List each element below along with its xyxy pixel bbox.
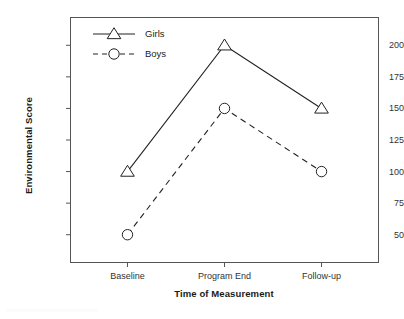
triangle-marker bbox=[121, 165, 135, 176]
triangle-marker bbox=[107, 28, 121, 39]
triangle-marker bbox=[218, 39, 232, 50]
legend-item-girls: Girls bbox=[93, 28, 165, 40]
legend-label: Girls bbox=[145, 28, 165, 39]
plot-area: GirlsBoys bbox=[0, 0, 404, 319]
chart-figure: Environmental Score Time of Measurement … bbox=[0, 0, 404, 319]
triangle-marker bbox=[315, 102, 329, 113]
circle-marker bbox=[316, 166, 326, 176]
page-artifact bbox=[6, 309, 98, 312]
data-series-layer bbox=[121, 39, 329, 240]
legend-label: Boys bbox=[145, 48, 166, 59]
series-line bbox=[127, 108, 321, 234]
circle-marker bbox=[109, 49, 119, 59]
x-axis-ticks bbox=[127, 263, 321, 268]
circle-marker bbox=[219, 103, 229, 113]
circle-marker bbox=[122, 230, 132, 240]
series-boys bbox=[122, 103, 326, 240]
legend-item-boys: Boys bbox=[93, 48, 166, 59]
y-axis-ticks bbox=[66, 45, 71, 234]
chart-legend: GirlsBoys bbox=[93, 28, 166, 60]
